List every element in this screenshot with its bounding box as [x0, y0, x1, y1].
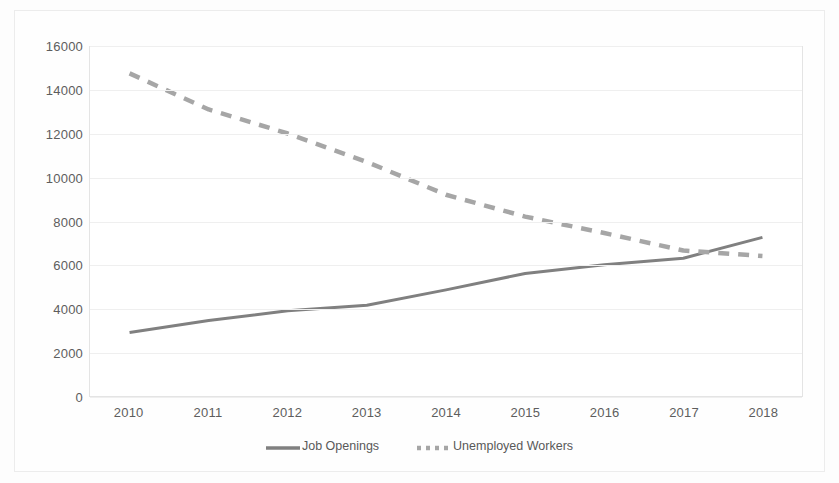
y-axis: 0200040006000800010000120001400016000	[15, 46, 83, 397]
x-tick-label: 2013	[352, 405, 382, 420]
gridline	[90, 222, 802, 223]
chart-container: 0200040006000800010000120001400016000 20…	[14, 10, 825, 472]
legend-label: Job Openings	[302, 439, 379, 453]
x-tick-label: 2010	[114, 405, 144, 420]
x-tick-label: 2012	[272, 405, 302, 420]
gridline	[90, 134, 802, 135]
gridline	[90, 309, 802, 310]
legend-item[interactable]: Unemployed Workers	[417, 439, 573, 453]
legend-label: Unemployed Workers	[453, 439, 573, 453]
gridline	[90, 397, 802, 398]
gridline	[90, 353, 802, 354]
chart-screenshot: 0200040006000800010000120001400016000 20…	[0, 0, 839, 483]
x-tick-label: 2017	[669, 405, 699, 420]
y-tick-label: 2000	[21, 346, 83, 361]
y-tick-label: 14000	[21, 82, 83, 97]
y-tick-label: 6000	[21, 258, 83, 273]
y-tick-label: 10000	[21, 170, 83, 185]
y-tick-label: 4000	[21, 302, 83, 317]
x-tick-label: 2016	[590, 405, 620, 420]
series-line-job-openings	[130, 237, 763, 332]
gridline	[90, 265, 802, 266]
plot-area	[89, 46, 803, 397]
y-tick-label: 16000	[21, 39, 83, 54]
dashed-line-icon	[417, 440, 451, 452]
x-tick-label: 2018	[748, 405, 778, 420]
x-axis: 201020112012201320142015201620172018	[15, 405, 824, 425]
legend-item[interactable]: Job Openings	[266, 439, 379, 453]
gridline	[90, 90, 802, 91]
series-line-unemployed-workers	[130, 73, 763, 256]
gridline	[90, 46, 802, 47]
x-tick-label: 2015	[510, 405, 540, 420]
y-tick-label: 12000	[21, 126, 83, 141]
solid-line-icon	[266, 440, 300, 452]
y-tick-label: 8000	[21, 214, 83, 229]
x-tick-label: 2011	[194, 405, 223, 420]
x-tick-label: 2014	[431, 405, 461, 420]
y-tick-label: 0	[21, 390, 83, 405]
chart-legend: Job OpeningsUnemployed Workers	[15, 439, 824, 453]
gridline	[90, 178, 802, 179]
